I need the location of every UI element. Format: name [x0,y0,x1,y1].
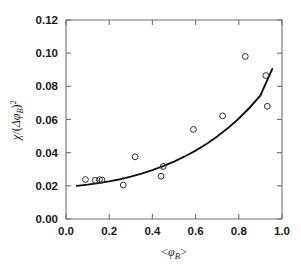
svg-text:χ/(ΔφB)2: χ/(ΔφB)2 [8,100,25,141]
x-axis-title: <φB> [161,245,187,261]
svg-text:<φB>: <φB> [161,245,187,261]
x-tick-label: 1.0 [274,225,290,237]
y-tick-label: 0.08 [36,80,59,92]
x-tick-label: 0.4 [144,225,161,237]
y-axis-title: χ/(ΔφB)2 [8,100,25,141]
x-title-close: > [180,245,187,259]
y-tick-label: 0.04 [36,147,59,159]
x-tick-label: 0.0 [58,225,74,237]
y-tick-label: 0.06 [36,114,58,126]
x-tick-label: 0.2 [101,225,117,237]
chart-figure: 0.000.020.040.060.080.100.12 0.00.20.40.… [0,0,301,269]
scatter-plot-svg: 0.000.020.040.060.080.100.12 0.00.20.40.… [0,0,301,269]
y-tick-label: 0.12 [36,14,58,26]
y-title-slash: /( [9,127,23,134]
x-tick-label: 0.8 [231,225,248,237]
x-tick-label: 0.6 [188,225,204,237]
y-title-sup-2: 2 [8,100,18,104]
y-title-delta-phi: Δφ [9,113,23,128]
y-tick-label: 0.02 [36,180,58,192]
y-tick-label: 0.10 [36,47,58,59]
y-tick-label: 0.00 [36,213,58,225]
